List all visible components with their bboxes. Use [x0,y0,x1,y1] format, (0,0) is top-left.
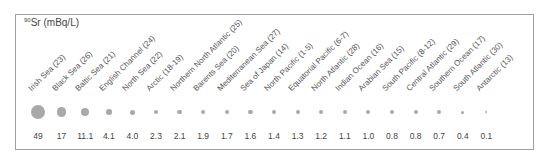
bubble-marker [130,110,135,115]
value-label: 1.3 [292,131,304,141]
value-label: 11.1 [77,131,93,141]
bubble-marker [390,110,394,114]
bubble-marker [461,111,464,114]
title-main: Sr (mBq/L) [31,17,79,28]
value-label: 2.3 [150,131,162,141]
value-label: 2.1 [174,131,186,141]
bubble-marker [177,110,182,115]
title-superscript: 90 [24,17,31,23]
value-label: 1.9 [197,131,209,141]
value-label: 0.8 [410,131,422,141]
value-label: 1.2 [315,131,327,141]
value-label: 1.7 [221,131,233,141]
value-label: 1.4 [268,131,280,141]
value-label: 4.1 [103,131,115,141]
bubble-marker [296,110,300,114]
chart-title: 90Sr (mBq/L) [24,17,79,28]
value-label: 0.1 [480,131,492,141]
value-label: 4.0 [126,131,138,141]
bubble-marker [106,109,112,115]
value-label: 0.8 [386,131,398,141]
value-label: 1.6 [244,131,256,141]
value-label: 0.4 [457,131,469,141]
value-label: 1.0 [362,131,374,141]
bubble-marker [414,110,418,114]
value-label: 0.7 [433,131,445,141]
bubble-marker [272,110,276,114]
bubble-marker [343,110,347,114]
value-label: 49 [33,131,42,141]
value-label: 1.1 [339,131,351,141]
bubble-marker [31,105,45,119]
bubble-marker [57,107,67,117]
bubble-marker [248,110,253,115]
value-label: 17 [57,131,66,141]
